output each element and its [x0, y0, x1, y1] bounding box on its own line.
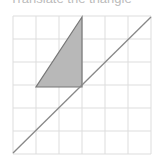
grid-diagram — [0, 0, 158, 161]
